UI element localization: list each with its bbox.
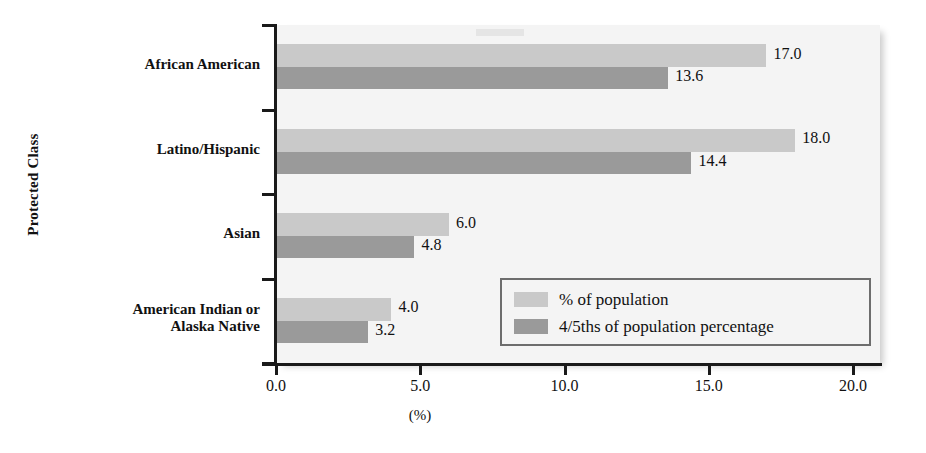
y-axis-tick [262,24,275,27]
x-axis-line [262,363,882,366]
y-axis-tick [262,362,275,365]
legend-swatch-icon-dark [514,319,548,334]
bar-value-label: 6.0 [456,214,476,232]
x-axis-title-text: (%) [409,407,432,424]
category-label: American Indian or Alaska Native [133,301,261,335]
x-axis-tick-label: 20.0 [818,377,888,395]
bar-value-label: 4.0 [398,298,418,316]
x-axis-tick-label: 10.0 [530,377,600,395]
bar-population-pct[interactable] [276,44,766,67]
y-axis-tick [262,109,275,112]
y-axis-title: Protected Class [25,90,42,280]
x-axis-tick-label: 0.0 [241,377,311,395]
legend: % of population 4/5ths of population per… [500,278,871,346]
bar-four-fifths-pct[interactable] [276,67,668,89]
bar-value-label: 3.2 [375,321,395,339]
bar-value-label: 4.8 [421,236,441,254]
bar-four-fifths-pct[interactable] [276,152,691,174]
plot-area: % of population 4/5ths of population per… [276,25,880,363]
legend-entry-0[interactable]: % of population [514,286,869,313]
x-axis-tick-label: 5.0 [385,377,455,395]
bar-four-fifths-pct[interactable] [276,236,414,258]
bar-population-pct[interactable] [276,213,449,236]
bar-four-fifths-pct[interactable] [276,321,368,343]
legend-label-1: 4/5ths of population percentage [559,317,774,337]
category-label: Asian [223,225,260,242]
bar-chart-figure: Protected Class % of population 4/5ths o… [0,0,926,453]
y-axis-tick [262,193,275,196]
legend-swatch-icon-light [514,292,548,307]
bar-population-pct[interactable] [276,298,391,321]
x-axis-title: (%) [276,407,880,424]
bar-value-label: 18.0 [802,129,830,147]
y-axis-tick [262,278,275,281]
x-axis-tick-label: 15.0 [674,377,744,395]
bar-value-label: 13.6 [675,67,703,85]
legend-label-0: % of population [559,290,669,310]
bar-value-label: 17.0 [773,45,801,63]
bar-population-pct[interactable] [276,129,795,152]
x-axis-tick [708,365,711,375]
category-label: Latino/Hispanic [157,141,260,158]
x-axis-tick [419,365,422,375]
x-axis-tick [564,365,567,375]
x-axis-tick [275,365,278,375]
category-label: African American [145,56,260,73]
bar-value-label: 14.4 [698,152,726,170]
x-axis-tick [852,365,855,375]
legend-entry-1[interactable]: 4/5ths of population percentage [514,313,869,340]
